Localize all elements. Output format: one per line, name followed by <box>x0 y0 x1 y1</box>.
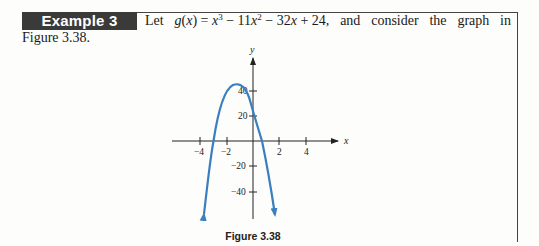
x-tick-label: −2 <box>221 147 231 157</box>
function-graph: −4 −2 2 4 x 40 20 −20 −40 y <box>0 0 539 246</box>
y-tick-label: −20 <box>231 161 246 171</box>
y-axis: 40 20 −20 −40 y <box>231 44 257 219</box>
x-axis-label: x <box>343 135 349 146</box>
x-tick-label: 4 <box>304 147 309 157</box>
x-tick-label: 2 <box>277 147 282 157</box>
y-axis-label: y <box>249 44 255 55</box>
x-tick-label: −4 <box>194 147 204 157</box>
y-tick-label: 20 <box>238 111 248 121</box>
y-tick-label: −40 <box>231 187 246 197</box>
figure-caption: Figure 3.38 <box>203 230 303 242</box>
